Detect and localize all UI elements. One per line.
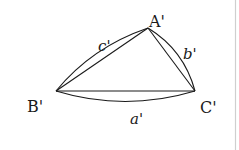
vertex-label-c: C' bbox=[200, 98, 217, 117]
side-label-a: a' bbox=[130, 110, 143, 128]
vertex-label-b: B' bbox=[27, 97, 43, 116]
arc-side-a bbox=[56, 91, 195, 102]
vertex-label-a: A' bbox=[148, 12, 165, 31]
side-label-c: c' bbox=[98, 37, 111, 55]
spherical-triangle-diagram: A' B' C' c' b' a' bbox=[0, 0, 239, 150]
side-label-b: b' bbox=[183, 45, 197, 63]
